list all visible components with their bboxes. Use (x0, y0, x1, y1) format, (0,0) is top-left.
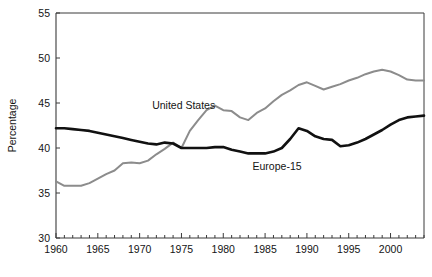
data-series-group (56, 70, 424, 186)
x-tick-label: 1965 (86, 243, 110, 255)
y-tick-label: 45 (38, 97, 50, 109)
y-axis-title: Percentage (6, 98, 18, 152)
series-label-united-states: United States (152, 99, 215, 111)
x-axis-ticks: 196019651970197519801985199019952000 (44, 233, 424, 255)
x-tick-label: 1990 (295, 243, 319, 255)
x-tick-label: 1975 (170, 243, 194, 255)
y-tick-label: 55 (38, 7, 50, 19)
chart-container: 303540455055 196019651970197519801985199… (0, 0, 432, 277)
x-tick-label: 1970 (128, 243, 152, 255)
line-chart: 303540455055 196019651970197519801985199… (0, 0, 432, 277)
x-tick-label: 1995 (337, 243, 361, 255)
y-tick-label: 30 (38, 232, 50, 244)
y-tick-label: 50 (38, 52, 50, 64)
axis-titles: Percentage (6, 98, 18, 152)
series-label-europe-15: Europe-15 (253, 160, 302, 172)
y-axis-ticks: 303540455055 (38, 7, 60, 244)
plot-frame (56, 13, 424, 238)
y-tick-label: 35 (38, 187, 50, 199)
x-tick-label: 2000 (379, 243, 403, 255)
x-tick-label: 1980 (212, 243, 236, 255)
x-tick-label: 1960 (44, 243, 68, 255)
x-tick-label: 1985 (253, 243, 277, 255)
series-line-united-states (56, 70, 424, 186)
series-line-europe-15 (56, 116, 424, 154)
y-tick-label: 40 (38, 142, 50, 154)
